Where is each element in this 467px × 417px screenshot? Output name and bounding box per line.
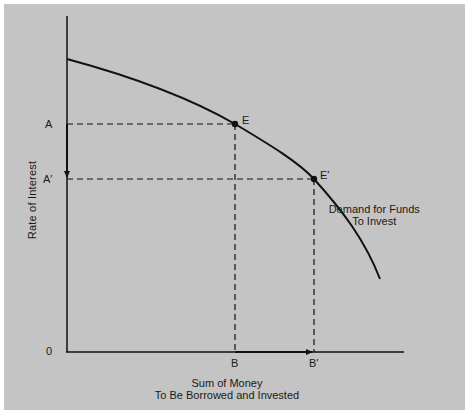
demand-curve-label-line2: To Invest xyxy=(329,215,420,227)
tick-label-a-prime: A′ xyxy=(43,173,52,185)
x-axis-label: Sum of Money To Be Borrowed and Invested xyxy=(155,377,299,401)
x-axis-label-line2: To Be Borrowed and Invested xyxy=(155,389,299,401)
tick-label-b-prime: B′ xyxy=(309,357,318,369)
point-label-e: E xyxy=(242,114,249,126)
origin-label: 0 xyxy=(46,345,52,357)
tick-label-b: B xyxy=(231,357,238,369)
point-label-e-prime: E′ xyxy=(320,169,329,181)
y-axis-label: Rate of Interest xyxy=(26,161,38,239)
point-e-dot xyxy=(232,121,238,127)
demand-curve-label-line1: Demand for Funds xyxy=(329,203,420,215)
demand-curve xyxy=(67,59,380,279)
tick-label-a: A xyxy=(45,118,52,130)
point-e-prime-dot xyxy=(311,176,317,182)
x-axis-label-line1: Sum of Money xyxy=(155,377,299,389)
demand-curve-label: Demand for Funds To Invest xyxy=(329,203,420,227)
